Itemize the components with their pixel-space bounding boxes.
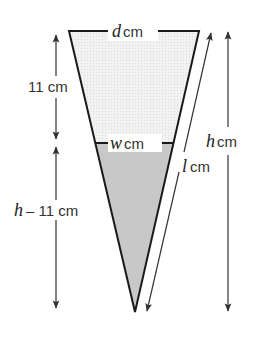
cone-diagram: dcm wcm 11 cm h– 11 cm hcm lcm — [0, 0, 264, 338]
liquid-region — [96, 143, 173, 312]
upper-height-label: 11 cm — [28, 78, 68, 95]
slant-length-label: lcm — [182, 156, 210, 176]
upper-region — [69, 31, 199, 143]
top-width-label: dcm — [112, 21, 143, 41]
total-height-label: hcm — [206, 131, 237, 151]
liquid-width-label: wcm — [110, 133, 144, 153]
lower-height-label: h– 11 cm — [14, 200, 78, 220]
